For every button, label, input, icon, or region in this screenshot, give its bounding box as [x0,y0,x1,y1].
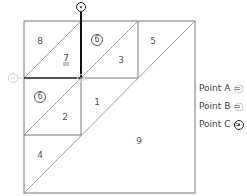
legend-item-c: Point C = [199,119,241,129]
label-text: 9 [136,136,142,146]
diagonal-6-2 [24,78,81,135]
label-text: 6 [91,34,103,46]
label-text: 3 [118,55,124,65]
diagonal-6-3 [81,21,138,78]
region-label-6-top: 6 [91,34,103,46]
legend-label-a: Point A = [199,83,241,93]
label-text: 4 [37,150,43,160]
legend-item-a: Point A = [199,83,241,93]
label-text: 6 [34,91,46,103]
legend-item-b: Point B = [199,101,241,111]
legend-label-b: Point B = [199,101,241,111]
diagonal-main [24,21,195,193]
region-label-1: 1 [94,97,100,107]
label-text: 1 [94,97,100,107]
label-text: 8 [37,36,43,46]
point-c-marker [77,3,86,12]
region-label-8: 8 [37,36,43,46]
legend-label-c: Point C = [199,119,241,129]
region-label-6-left: 6 [34,91,46,103]
region-label-4: 4 [37,150,43,160]
point-a-marker [9,74,25,83]
label-text: 7 [63,54,69,66]
region-label-2: 2 [62,112,68,122]
diagonal-8-7 [24,21,81,78]
label-text: 2 [62,112,68,122]
region-label-5: 5 [150,36,156,46]
label-text: 5 [150,36,156,46]
region-label-7: 7 [63,53,69,66]
region-label-3: 3 [118,55,124,65]
region-label-9: 9 [136,136,142,146]
